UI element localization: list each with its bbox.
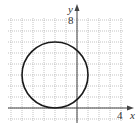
graph: y 8 4 x	[0, 0, 137, 126]
y-axis	[75, 4, 80, 123]
y-tick-label-8: 8	[68, 14, 74, 26]
y-axis-arrow-icon	[75, 4, 80, 11]
x-tick-label-4: 4	[117, 109, 123, 121]
x-axis	[8, 106, 134, 111]
x-axis-label: x	[129, 109, 135, 121]
